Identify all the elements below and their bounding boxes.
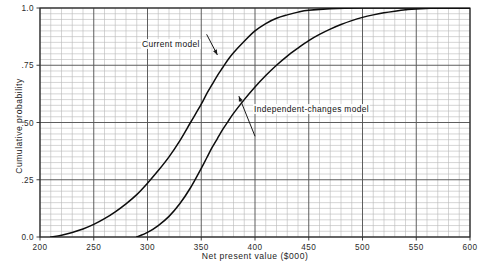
y-axis-title: Cumulative probability xyxy=(14,56,24,196)
y-tick-label-0p0: 0.0 xyxy=(8,233,34,242)
x-tick-label-250: 250 xyxy=(86,243,101,252)
chart-figure: 200250300350400450500550600 0.0.25.50.75… xyxy=(0,0,481,268)
x-tick-label-200: 200 xyxy=(33,243,48,252)
x-axis-title: Net present value ($000) xyxy=(202,251,309,261)
series-label-current-model: Current model xyxy=(141,39,201,49)
series-label-independent-changes-model: Independent-changes model xyxy=(253,104,370,114)
y-tick-label-1p0: 1.0 xyxy=(8,4,34,13)
x-tick-label-300: 300 xyxy=(140,243,155,252)
x-tick-label-500: 500 xyxy=(355,243,370,252)
x-tick-label-550: 550 xyxy=(409,243,424,252)
x-tick-label-600: 600 xyxy=(463,243,478,252)
plot-canvas xyxy=(0,0,481,268)
